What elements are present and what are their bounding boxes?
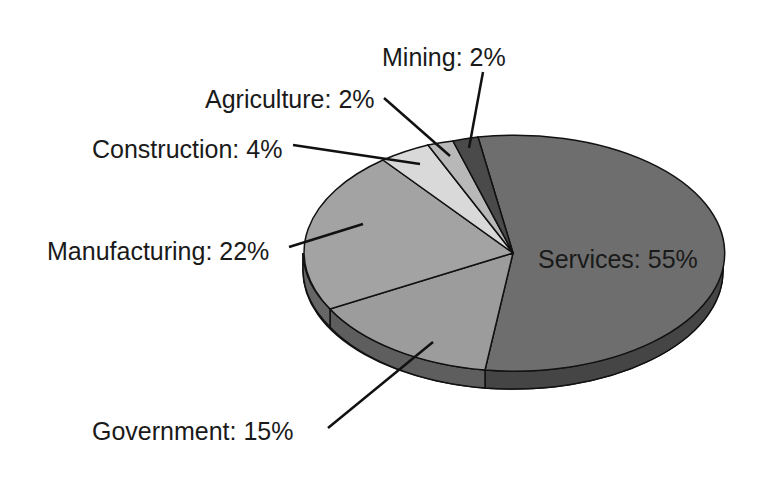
pie-chart: Mining: 2% Agriculture: 2% Construction:… <box>0 0 766 479</box>
label-agriculture: Agriculture: 2% <box>205 85 375 113</box>
label-government: Government: 15% <box>92 417 294 445</box>
label-services: Services: 55% <box>538 245 698 273</box>
label-construction: Construction: 4% <box>92 135 282 163</box>
label-manufacturing: Manufacturing: 22% <box>47 237 269 265</box>
label-mining: Mining: 2% <box>382 43 506 71</box>
